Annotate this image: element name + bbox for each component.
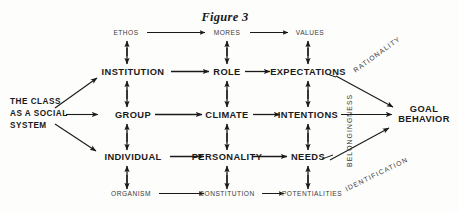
label-belongingness: BELONGINGNESS	[346, 94, 353, 167]
source-line-1: THE CLASS	[10, 96, 68, 108]
goal-behavior-line-2: BEHAVIOR	[398, 114, 450, 124]
node-constitution: CONSTITUTION	[199, 190, 254, 197]
figure-diagram: Figure 3	[0, 0, 459, 212]
node-potentialities: POTENTIALITIES	[282, 190, 342, 197]
node-ethos: ETHOS	[113, 29, 138, 36]
node-organism: ORGANISM	[111, 190, 151, 197]
node-individual: INDIVIDUAL	[104, 152, 161, 162]
source-node-class-as-social-system: THE CLASS AS A SOCIAL SYSTEM	[10, 96, 68, 132]
goal-behavior-line-1: GOAL	[398, 104, 450, 114]
source-line-3: SYSTEM	[10, 120, 68, 132]
node-institution: INSTITUTION	[102, 67, 165, 77]
source-line-2: AS A SOCIAL	[10, 108, 68, 120]
node-personality: PERSONALITY	[192, 152, 263, 162]
node-needs: NEEDS	[291, 152, 325, 162]
node-role: ROLE	[213, 67, 240, 77]
node-goal-behavior: GOAL BEHAVIOR	[398, 104, 450, 125]
node-group: GROUP	[115, 110, 151, 120]
node-intentions: INTENTIONS	[278, 110, 338, 120]
node-values: VALUES	[296, 29, 325, 36]
node-expectations: EXPECTATIONS	[270, 67, 346, 77]
node-mores: MORES	[214, 29, 241, 36]
node-climate: CLIMATE	[205, 110, 248, 120]
